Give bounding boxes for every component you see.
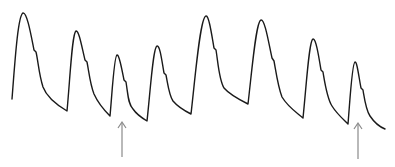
pulse-waveform-figure (0, 0, 395, 167)
arrow-beat-3 (118, 122, 126, 157)
waveform-trace (12, 13, 385, 129)
arrow-beat-8 (354, 123, 362, 159)
